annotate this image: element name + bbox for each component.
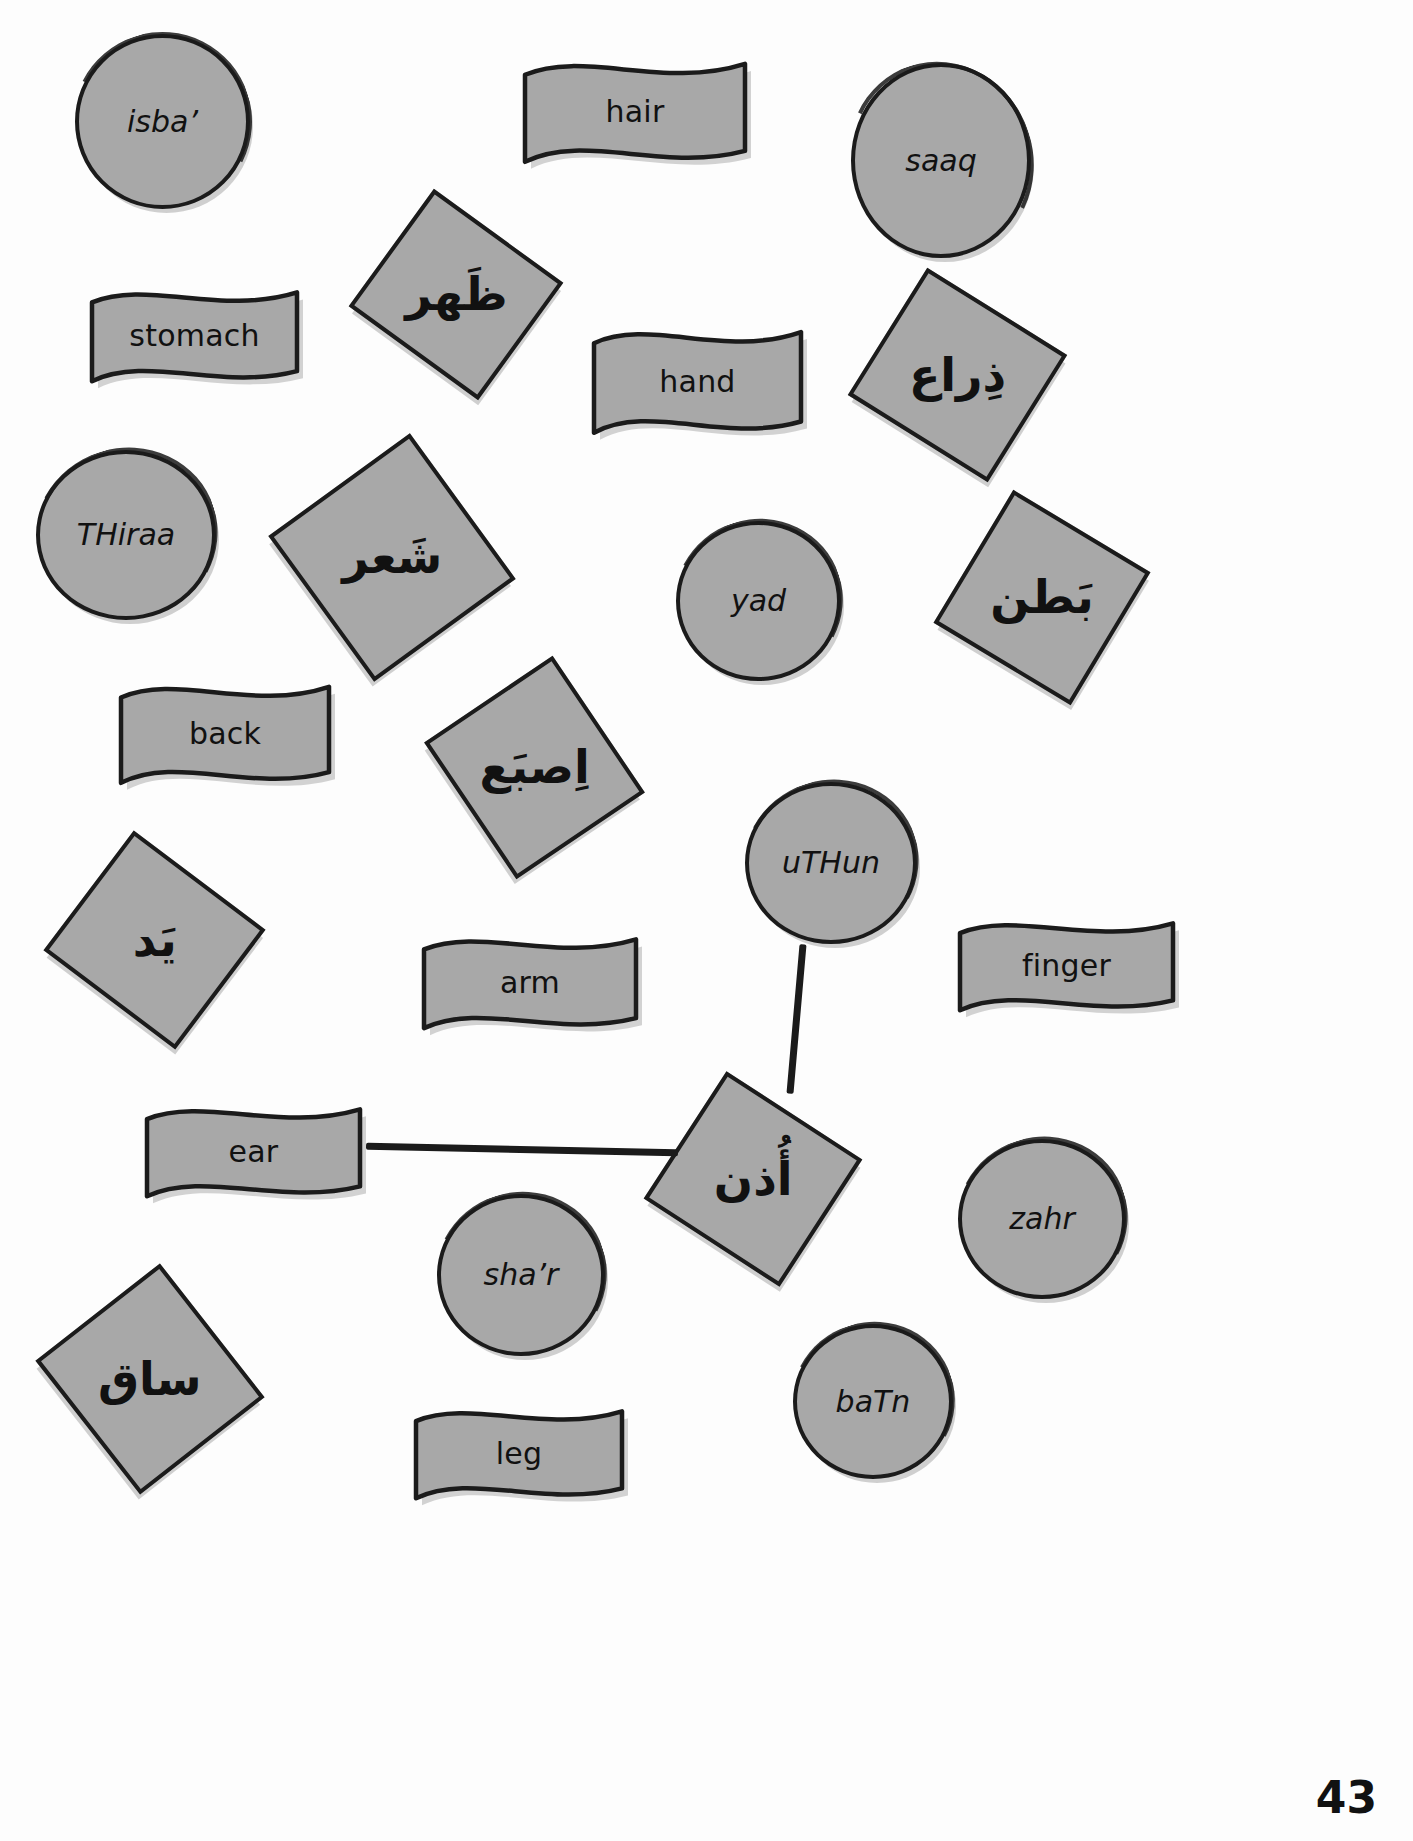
card-label: sha’r bbox=[484, 1259, 559, 1291]
card-label: ساق bbox=[98, 1355, 202, 1403]
card-label: saaq bbox=[905, 145, 976, 177]
card-THiraa-circle[interactable]: THiraa bbox=[36, 450, 216, 620]
card-finger-banner[interactable]: finger bbox=[954, 912, 1179, 1020]
card-hand-banner[interactable]: hand bbox=[588, 320, 807, 443]
card-stomach-banner[interactable]: stomach bbox=[86, 281, 303, 391]
card-ear-banner[interactable]: ear bbox=[141, 1098, 366, 1206]
card-uTHun-diamond[interactable]: أُذن bbox=[644, 1071, 863, 1287]
card-saaq-circle[interactable]: saaq bbox=[851, 63, 1031, 258]
page-number: 43 bbox=[1316, 1772, 1377, 1823]
card-label: isba’ bbox=[127, 106, 198, 138]
card-label: finger bbox=[1022, 950, 1111, 982]
worksheet-page: isba’ hairsaaqظَهر stomach handذِراعTHir… bbox=[0, 0, 1413, 1841]
card-label: yad bbox=[731, 585, 786, 617]
card-isba-circle[interactable]: isba’ bbox=[75, 34, 250, 209]
card-shar-diamond[interactable]: شَعر bbox=[268, 433, 515, 681]
card-isba-diamond[interactable]: اِصبَع bbox=[424, 656, 645, 879]
card-label: hair bbox=[606, 96, 665, 128]
card-label: baTn bbox=[836, 1386, 911, 1418]
card-uTHun-circle[interactable]: uTHun bbox=[745, 782, 917, 944]
card-THahr-diamond[interactable]: ظَهر bbox=[349, 189, 564, 400]
card-label: شَعر bbox=[342, 533, 442, 581]
card-yad-circle[interactable]: yad bbox=[676, 521, 841, 681]
card-label: stomach bbox=[129, 320, 259, 352]
connector-ear-to-uthun-diamond bbox=[366, 1143, 678, 1157]
card-label: يَد bbox=[133, 916, 177, 964]
card-leg-banner[interactable]: leg bbox=[410, 1400, 628, 1508]
card-saaq-diamond[interactable]: ساق bbox=[35, 1263, 264, 1494]
connector-uthun-circle-to-diamond bbox=[786, 944, 806, 1094]
card-label: leg bbox=[496, 1438, 542, 1470]
card-label: بَطن bbox=[990, 573, 1093, 621]
card-label: ear bbox=[229, 1136, 279, 1168]
card-zahr-circle[interactable]: zahr bbox=[958, 1139, 1126, 1299]
card-back-banner[interactable]: back bbox=[115, 675, 335, 793]
card-batn-diamond[interactable]: بَطن bbox=[934, 490, 1151, 705]
card-hair-banner[interactable]: hair bbox=[519, 52, 751, 172]
card-thiraa-diamond[interactable]: ذِراع bbox=[848, 268, 1067, 483]
card-label: hand bbox=[659, 366, 735, 398]
card-batn-circle[interactable]: baTn bbox=[793, 1324, 953, 1479]
card-label: THiraa bbox=[77, 519, 175, 551]
card-yad-diamond[interactable]: يَد bbox=[43, 830, 265, 1049]
card-label: ذِراع bbox=[909, 351, 1006, 399]
card-label: uTHun bbox=[782, 847, 880, 879]
card-label: أُذن bbox=[714, 1155, 793, 1203]
card-label: اِصبَع bbox=[479, 743, 589, 791]
card-shar-circle[interactable]: sha’r bbox=[437, 1194, 605, 1356]
card-label: ظَهر bbox=[405, 270, 507, 318]
card-label: arm bbox=[500, 967, 560, 999]
card-arm-banner[interactable]: arm bbox=[418, 928, 642, 1038]
card-label: zahr bbox=[1009, 1203, 1074, 1235]
card-label: back bbox=[189, 718, 261, 750]
